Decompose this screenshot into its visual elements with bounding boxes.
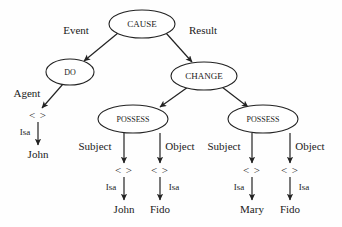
isa-label-possess-left-subject: Isa <box>106 182 117 192</box>
isa-label-possess-right-object: Isa <box>299 182 310 192</box>
node-do-label: DO <box>64 68 76 77</box>
edge-label-event: Event <box>63 24 89 36</box>
isa-label-group: Isa Isa Isa Isa Isa <box>20 127 310 192</box>
node-possess-left[interactable]: POSSESS <box>98 105 168 133</box>
edge-cause-do <box>84 33 118 61</box>
leaf-mary: Mary <box>240 203 264 215</box>
edge-label-result: Result <box>189 24 217 36</box>
edge-label-object-left: Object <box>165 140 194 152</box>
variable-possess-left-object: < > <box>151 164 169 176</box>
variable-possess-right-object: < > <box>281 164 299 176</box>
variable-agent: < > <box>29 109 47 121</box>
diagram-canvas: CAUSE DO CHANGE POSSESS POSSESS Event <box>0 0 342 227</box>
edge-do-agent <box>42 84 63 108</box>
variable-possess-right-subject: < > <box>243 164 261 176</box>
leaf-fido-right: Fido <box>280 203 301 215</box>
node-do[interactable]: DO <box>46 59 94 85</box>
edge-label-subject-right: Subject <box>208 140 241 152</box>
leaf-john-left: John <box>28 148 49 160</box>
variable-possess-left-subject: < > <box>115 164 133 176</box>
leaf-group: John John Fido Mary Fido <box>28 148 301 215</box>
semantic-network-diagram: CAUSE DO CHANGE POSSESS POSSESS Event <box>0 0 342 227</box>
node-cause-label: CAUSE <box>127 19 157 29</box>
edge-change-possess-right <box>222 87 248 107</box>
node-possess-right[interactable]: POSSESS <box>228 105 298 133</box>
edge-label-subject-left: Subject <box>79 140 112 152</box>
isa-label-possess-right-subject: Isa <box>234 182 245 192</box>
edge-label-agent: Agent <box>14 87 41 99</box>
node-change[interactable]: CHANGE <box>171 62 237 90</box>
node-change-label: CHANGE <box>185 71 223 81</box>
edge-label-object-right: Object <box>295 140 324 152</box>
node-possess-right-label: POSSESS <box>247 115 280 124</box>
leaf-john-mid: John <box>114 203 135 215</box>
edge-cause-change <box>166 33 192 62</box>
edge-change-possess-left <box>160 87 188 107</box>
isa-label-agent: Isa <box>20 127 31 137</box>
isa-label-possess-left-object: Isa <box>169 182 180 192</box>
leaf-fido-mid: Fido <box>150 203 171 215</box>
node-cause[interactable]: CAUSE <box>109 10 175 38</box>
node-possess-left-label: POSSESS <box>117 115 150 124</box>
